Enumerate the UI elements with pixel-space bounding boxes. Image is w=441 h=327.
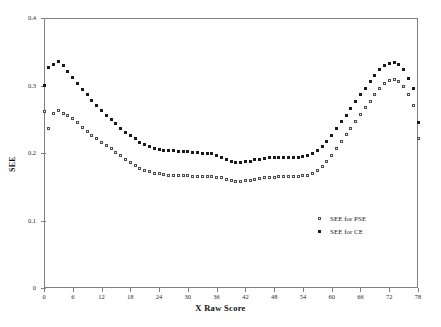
- data-point: [215, 154, 218, 157]
- data-point: [393, 61, 396, 64]
- data-point: [306, 174, 309, 177]
- x-axis-tick-label: 24: [156, 293, 163, 300]
- x-axis-tick-label: 18: [127, 293, 134, 300]
- data-point: [287, 175, 290, 178]
- data-point: [301, 155, 304, 158]
- data-point: [397, 63, 400, 66]
- data-point: [364, 87, 367, 90]
- data-point: [220, 156, 223, 159]
- data-point: [57, 109, 60, 112]
- data-point: [100, 109, 103, 112]
- y-axis-tick-label: 0.4: [0, 14, 36, 21]
- data-point: [153, 172, 156, 175]
- x-axis-tick: [303, 288, 304, 292]
- data-point: [369, 100, 372, 103]
- data-point: [66, 114, 69, 117]
- data-point: [143, 169, 146, 172]
- x-axis-tick: [332, 288, 333, 292]
- data-point: [220, 176, 223, 179]
- legend-item-label: SEE for PSE: [330, 215, 366, 223]
- data-point: [167, 149, 170, 152]
- x-axis-tick-label: 0: [42, 293, 45, 300]
- data-point: [162, 173, 165, 176]
- y-axis-tick-label: 0.1: [0, 217, 36, 224]
- data-point: [268, 156, 271, 159]
- data-point: [100, 141, 103, 144]
- data-point: [206, 175, 209, 178]
- y-axis-tick: [41, 18, 46, 19]
- data-point: [378, 87, 381, 90]
- data-point: [196, 175, 199, 178]
- data-point: [158, 172, 161, 175]
- data-point: [263, 176, 266, 179]
- x-axis-tick: [274, 288, 275, 292]
- x-axis-tick: [73, 288, 74, 292]
- data-point: [52, 63, 55, 66]
- data-point: [76, 82, 79, 85]
- data-point: [258, 158, 261, 161]
- data-point: [76, 121, 79, 124]
- data-point: [57, 60, 60, 63]
- data-point: [167, 174, 170, 177]
- data-point: [186, 150, 189, 153]
- data-point: [349, 107, 352, 110]
- data-point: [138, 167, 141, 170]
- data-point: [282, 175, 285, 178]
- data-point: [239, 161, 242, 164]
- data-point: [225, 178, 228, 181]
- data-point: [412, 87, 415, 90]
- x-axis-tick-label: 66: [357, 293, 364, 300]
- data-point: [393, 78, 396, 81]
- y-axis-tick-label: 0.3: [0, 82, 36, 89]
- data-point: [397, 80, 400, 83]
- x-axis-tick: [245, 288, 246, 292]
- y-axis-tick: [41, 221, 46, 222]
- data-point: [158, 148, 161, 151]
- y-axis-tick-label: 0.2: [0, 149, 36, 156]
- legend-item[interactable]: SEE for PSE: [318, 212, 366, 225]
- data-point: [124, 131, 127, 134]
- data-point: [258, 177, 261, 180]
- data-point: [110, 118, 113, 121]
- data-point: [407, 77, 410, 80]
- data-point: [273, 156, 276, 159]
- data-point: [148, 170, 151, 173]
- legend-marker-icon: [318, 217, 321, 220]
- data-point: [86, 130, 89, 133]
- data-point: [43, 84, 46, 87]
- data-point: [172, 174, 175, 177]
- legend-item-label: SEE for CE: [330, 228, 363, 236]
- data-point: [273, 176, 276, 179]
- data-point: [114, 122, 117, 125]
- legend-marker-icon: [318, 230, 321, 233]
- x-axis-tick-label: 36: [213, 293, 220, 300]
- data-point: [162, 149, 165, 152]
- data-point: [201, 152, 204, 155]
- data-point: [186, 174, 189, 177]
- data-point: [43, 110, 46, 113]
- x-axis-tick: [102, 288, 103, 292]
- data-point: [335, 147, 338, 150]
- data-point: [90, 134, 93, 137]
- x-axis-tick: [389, 288, 390, 292]
- data-point: [177, 150, 180, 153]
- data-point: [71, 117, 74, 120]
- data-point: [182, 174, 185, 177]
- data-point: [268, 176, 271, 179]
- data-point: [316, 149, 319, 152]
- data-point: [177, 174, 180, 177]
- data-point: [182, 150, 185, 153]
- data-point: [62, 112, 65, 115]
- data-point: [383, 64, 386, 67]
- data-point: [143, 143, 146, 146]
- legend-item[interactable]: SEE for CE: [318, 225, 366, 238]
- data-point: [345, 114, 348, 117]
- data-point: [345, 133, 348, 136]
- data-point: [52, 112, 55, 115]
- data-point: [66, 70, 69, 73]
- data-point: [349, 127, 352, 130]
- data-point: [373, 93, 376, 96]
- chart-legend: SEE for PSESEE for CE: [318, 212, 366, 238]
- data-point: [321, 165, 324, 168]
- data-point: [292, 156, 295, 159]
